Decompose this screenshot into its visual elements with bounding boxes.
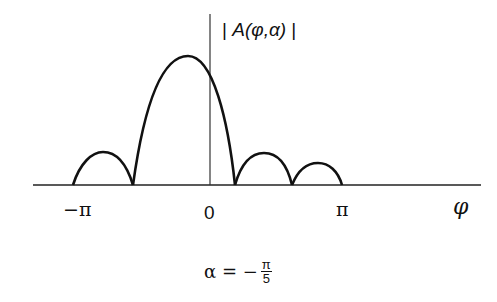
ylabel-bar-left: | xyxy=(222,19,232,40)
x-axis-label: φ xyxy=(453,196,468,218)
side-lobe-right-2 xyxy=(292,163,342,185)
side-lobe-left xyxy=(73,152,133,185)
ylabel-bar-right: | xyxy=(286,19,296,40)
ylabel-args: (φ,α) xyxy=(245,19,286,40)
ylabel-A: A xyxy=(232,19,245,40)
fraction-denominator: 5 xyxy=(263,272,270,286)
side-lobe-right-1 xyxy=(235,153,292,185)
main-lobe xyxy=(133,56,235,185)
fraction-numerator: π xyxy=(261,258,272,272)
tick-label-zero: 0 xyxy=(204,203,215,222)
alpha-annotation-lhs: α = − xyxy=(204,263,258,281)
alpha-fraction: π 5 xyxy=(261,258,272,286)
array-factor-plot xyxy=(0,0,497,302)
tick-label-neg-pi: −π xyxy=(63,200,91,219)
tick-label-pi: π xyxy=(336,200,349,219)
y-axis-label: | A(φ,α) | xyxy=(222,20,296,39)
alpha-annotation: α = − π 5 xyxy=(204,258,272,286)
